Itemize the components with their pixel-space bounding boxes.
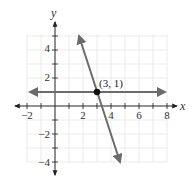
- intersection-label: (3, 1): [99, 77, 123, 90]
- x-tick-label: 4: [108, 109, 114, 121]
- x-tick-label: −2: [21, 109, 33, 121]
- y-tick-label: 4: [45, 42, 51, 54]
- steep-line: [79, 36, 120, 162]
- coordinate-plane: −2 2 4 6 8 4 2 −2 −4 x y (3, 1): [0, 0, 195, 180]
- x-tick-label: 8: [164, 109, 170, 121]
- intersection-point: [94, 89, 100, 95]
- x-tick-label: 2: [80, 109, 86, 121]
- y-tick-label: −4: [38, 156, 50, 168]
- x-axis-label: x: [179, 99, 186, 113]
- y-axis-label: y: [50, 6, 57, 20]
- y-tick-label: 2: [45, 71, 51, 83]
- y-tick-label: −2: [38, 128, 50, 140]
- x-tick-label: 6: [136, 109, 142, 121]
